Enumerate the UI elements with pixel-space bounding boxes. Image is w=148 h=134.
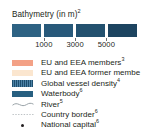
legend-row-label: EU and EEA members3 bbox=[37, 58, 124, 68]
bathymetry-title: Bathymetry (in m)2 bbox=[12, 10, 148, 20]
legend-symbol-cell bbox=[12, 79, 37, 89]
bathymetry-tick-label-3000: 3000 bbox=[66, 40, 83, 49]
legend-row-superscript: 4 bbox=[117, 77, 120, 83]
marker-national-capital bbox=[12, 121, 33, 130]
bathymetry-axis-ticks: 100030005000 bbox=[12, 38, 137, 49]
bathymetry-title-text: Bathymetry (in m) bbox=[12, 10, 77, 19]
legend-row: Waterbody6 bbox=[12, 89, 148, 99]
bathymetry-title-superscript: 2 bbox=[77, 8, 80, 14]
legend-row: EU and EEA members3 bbox=[12, 58, 148, 68]
legend-symbol-cell bbox=[12, 89, 37, 99]
bathymetry-swatch-2 bbox=[44, 24, 73, 37]
legend-row-superscript: 6 bbox=[80, 88, 83, 94]
bathymetry-color-ramp bbox=[12, 24, 137, 37]
swatch-waterbody bbox=[12, 91, 33, 98]
legend-row-label: Global vessel density4 bbox=[37, 79, 120, 89]
legend-row-superscript: 5 bbox=[60, 98, 63, 104]
legend-symbol-cell bbox=[12, 68, 37, 78]
swatch-global-vessel-density bbox=[12, 80, 33, 87]
bathymetry-tick-label-1000: 1000 bbox=[35, 40, 52, 49]
map-legend: Bathymetry (in m)2 100030005000 EU and E… bbox=[0, 0, 148, 134]
bathymetry-swatch-1 bbox=[12, 24, 41, 37]
bathymetry-tick-label-5000: 5000 bbox=[98, 40, 115, 49]
legend-symbol-cell bbox=[12, 110, 37, 120]
legend-row-label: EU and EEA former membe bbox=[37, 68, 140, 78]
bathymetry-swatch-3 bbox=[76, 24, 105, 37]
swatch-eu-eea-former-members bbox=[12, 70, 33, 77]
legend-row-label: River5 bbox=[37, 100, 63, 110]
legend-row: Country border6 bbox=[12, 110, 148, 120]
legend-row: EU and EEA former membe bbox=[12, 68, 148, 78]
legend-row-list: EU and EEA members3EU and EEA former mem… bbox=[12, 58, 148, 131]
legend-row-label: Country border6 bbox=[37, 110, 98, 120]
bathymetry-swatch-4 bbox=[108, 24, 137, 37]
legend-row: National capital6 bbox=[12, 120, 148, 130]
legend-row-superscript: 6 bbox=[96, 119, 99, 125]
line-country-border bbox=[12, 110, 34, 119]
legend-symbol-cell bbox=[12, 120, 37, 130]
bathymetry-legend-block: Bathymetry (in m)2 100030005000 bbox=[12, 10, 148, 49]
legend-row-superscript: 3 bbox=[121, 56, 124, 62]
legend-row: River5 bbox=[12, 100, 148, 110]
legend-symbol-cell bbox=[12, 100, 37, 110]
capital-dot-glyph bbox=[21, 124, 24, 127]
legend-symbol-cell bbox=[12, 58, 37, 68]
legend-row-label: National capital6 bbox=[37, 120, 99, 130]
line-river bbox=[12, 100, 34, 109]
swatch-eu-eea-members bbox=[12, 60, 33, 67]
legend-row-superscript: 6 bbox=[95, 108, 98, 114]
